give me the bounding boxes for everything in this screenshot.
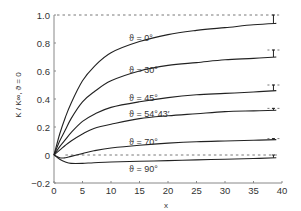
y-tick-label: 0.2 [37, 122, 50, 133]
x-tick-label: 10 [106, 185, 117, 196]
curve-label-45: ϑ = 45° [129, 93, 158, 103]
y-tick-label: 0.4 [37, 94, 50, 105]
y-axis-title: K / K∞, ϑ = 0 [14, 72, 23, 118]
y-tick-label: −0.2 [31, 178, 50, 189]
x-tick-label: 40 [277, 185, 288, 196]
y-tick-label: 0.6 [37, 66, 50, 77]
x-tick-label: 25 [191, 185, 202, 196]
y-tick-label: 0.8 [37, 38, 50, 49]
line-chart: 0510152025303540−0.200.20.40.60.81.0 ϑ =… [0, 0, 301, 211]
curve-line [54, 23, 276, 155]
curve-label-90: ϑ = 90° [129, 164, 158, 174]
curve-label-54: ϑ = 54°43′ [129, 109, 170, 119]
x-axis-title: x [164, 201, 168, 210]
x-tick-label: 15 [134, 185, 145, 196]
curves [54, 23, 276, 163]
x-tick-label: 0 [51, 185, 56, 196]
x-tick-label: 35 [248, 185, 259, 196]
curve-label-70: ϑ = 70° [129, 137, 158, 147]
reference-lines [57, 15, 279, 155]
y-tick-label: 1.0 [37, 10, 50, 21]
curve-line [54, 91, 276, 155]
x-tick-label: 20 [163, 185, 174, 196]
curve-line [54, 155, 276, 164]
asymptote-markers [267, 15, 279, 158]
y-tick-label: 0 [45, 150, 50, 161]
axes: 0510152025303540−0.200.20.40.60.81.0 [31, 10, 287, 197]
x-tick-label: 30 [220, 185, 231, 196]
curve-label-30: ϑ = 30° [129, 65, 158, 75]
x-tick-label: 5 [80, 185, 85, 196]
curve-label-0: ϑ = 0° [129, 33, 153, 43]
